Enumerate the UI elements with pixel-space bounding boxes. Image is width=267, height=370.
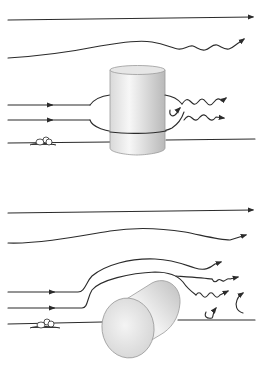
fallen-cylinder [98, 281, 180, 362]
wavy-streamline-arrow [8, 39, 244, 58]
ground-line-left [8, 322, 102, 324]
straight-streamline-arrow [8, 17, 253, 20]
bottom-panel [8, 210, 255, 361]
wake-branch [176, 276, 212, 279]
split-flow-upper-right [165, 95, 182, 104]
ground-line-left [8, 142, 110, 143]
flow-diagram: Airflow around obstacles: upright cylind… [0, 0, 267, 370]
ground-line-right [166, 139, 255, 140]
turbulent-wake-upper [182, 98, 226, 105]
flow-over-cylinder-outer [52, 259, 221, 292]
ground-tuft-icon [30, 137, 56, 145]
top-panel [8, 17, 255, 155]
turbulent-wake-lower [196, 291, 228, 297]
turbulent-wake-lower [184, 115, 224, 120]
diagram-canvas [0, 0, 267, 370]
eddy-arrow-right [236, 293, 243, 313]
eddy-arrow [170, 108, 180, 116]
curved-streamline-arrow [8, 228, 246, 243]
turbulent-wake-upper [212, 277, 238, 282]
split-flow-upper-left [90, 95, 110, 105]
straight-streamline-arrow [8, 210, 253, 213]
eddy-arrow-left [205, 308, 216, 318]
upright-cylinder [110, 66, 165, 156]
